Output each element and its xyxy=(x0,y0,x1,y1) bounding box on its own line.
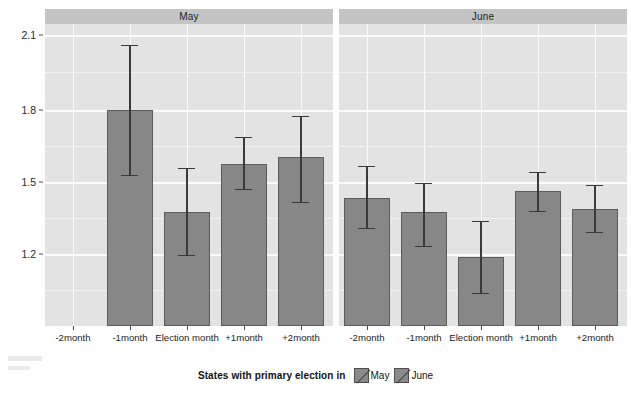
gridline-major xyxy=(339,182,627,184)
legend-label: June xyxy=(411,370,433,381)
gridline-minor xyxy=(339,72,627,73)
gridline-major xyxy=(45,110,333,112)
errorbar-cap-upper xyxy=(121,45,138,46)
errorbar-line xyxy=(300,116,301,203)
errorbar-cap-upper xyxy=(586,185,603,186)
x-tick-label: Election month xyxy=(449,332,512,343)
scan-artifact xyxy=(8,366,30,370)
plot-panel-may xyxy=(45,24,333,326)
y-tick-mark xyxy=(39,110,43,111)
x-tick-label: +2month xyxy=(282,332,320,343)
x-tick-mark xyxy=(367,326,368,330)
errorbar-cap-lower xyxy=(586,232,603,233)
x-tick-mark xyxy=(130,326,131,330)
y-tick-mark xyxy=(39,254,43,255)
x-tick-label: +1month xyxy=(225,332,263,343)
errorbar-line xyxy=(594,185,595,233)
y-tick-label: 1.8 xyxy=(2,104,36,116)
errorbar-line xyxy=(243,137,244,190)
errorbar-cap-lower xyxy=(235,189,252,190)
errorbar-line xyxy=(537,172,538,212)
errorbar-line xyxy=(129,45,130,176)
errorbar-cap-upper xyxy=(529,172,546,173)
y-tick-label: 1.5 xyxy=(2,176,36,188)
x-tick-label: -2month xyxy=(55,332,90,343)
x-tick-mark xyxy=(538,326,539,330)
errorbar-line xyxy=(480,221,481,294)
legend-item-june[interactable]: June xyxy=(394,368,433,383)
x-tick-mark xyxy=(481,326,482,330)
errorbar-cap-upper xyxy=(292,116,309,117)
gridline-vertical xyxy=(73,24,74,326)
gridline-minor xyxy=(45,72,333,73)
panel-strip-june: June xyxy=(339,9,627,24)
y-tick-mark xyxy=(39,182,43,183)
legend-item-may[interactable]: May xyxy=(354,368,390,383)
x-tick-label: +1month xyxy=(519,332,557,343)
errorbar-cap-upper xyxy=(178,168,195,169)
x-tick-label: -1month xyxy=(112,332,147,343)
x-tick-mark xyxy=(301,326,302,330)
gridline-major xyxy=(45,35,333,37)
errorbar-cap-lower xyxy=(415,246,432,247)
errorbar-cap-upper xyxy=(358,166,375,167)
gridline-major xyxy=(339,110,627,112)
gridline-minor xyxy=(339,146,627,147)
x-tick-mark xyxy=(424,326,425,330)
legend-label: May xyxy=(371,370,390,381)
errorbar-cap-lower xyxy=(472,293,489,294)
errorbar-cap-upper xyxy=(472,221,489,222)
errorbar-line xyxy=(366,166,367,229)
chart-legend: States with primary election in May June xyxy=(0,368,631,383)
x-tick-label: Election month xyxy=(155,332,218,343)
x-tick-label: -2month xyxy=(349,332,384,343)
errorbar-cap-lower xyxy=(529,211,546,212)
errorbar-cap-upper xyxy=(415,183,432,184)
scan-artifact xyxy=(8,356,42,361)
y-tick-mark xyxy=(39,35,43,36)
x-tick-mark xyxy=(244,326,245,330)
gridline-major xyxy=(339,35,627,37)
y-tick-label: 1.2 xyxy=(2,248,36,260)
panel-strip-label: May xyxy=(179,11,199,22)
x-tick-label: -1month xyxy=(406,332,441,343)
errorbar-line xyxy=(423,183,424,247)
panel-strip-may: May xyxy=(45,9,333,24)
panel-strip-label: June xyxy=(472,11,495,22)
plot-panel-june xyxy=(339,24,627,326)
x-tick-mark xyxy=(73,326,74,330)
errorbar-cap-upper xyxy=(235,137,252,138)
hatched-square-icon xyxy=(354,368,369,383)
x-tick-mark xyxy=(187,326,188,330)
errorbar-cap-lower xyxy=(358,228,375,229)
errorbar-cap-lower xyxy=(178,255,195,256)
legend-title: States with primary election in xyxy=(198,370,346,381)
errorbar-cap-lower xyxy=(292,202,309,203)
errorbar-cap-lower xyxy=(121,175,138,176)
errorbar-line xyxy=(186,168,187,256)
hatched-square-icon xyxy=(394,368,409,383)
x-tick-mark xyxy=(595,326,596,330)
chart-figure: Absolute Net Partisan Skew 2.1 1.8 1.5 1… xyxy=(0,0,631,399)
gridline-minor xyxy=(45,146,333,147)
y-tick-label: 2.1 xyxy=(2,29,36,41)
x-tick-label: +2month xyxy=(576,332,614,343)
